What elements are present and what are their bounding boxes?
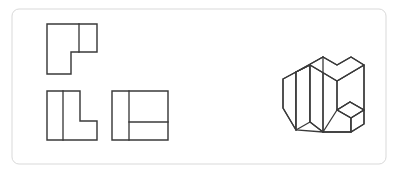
drawing-sheet — [0, 0, 405, 175]
side-view — [112, 91, 168, 140]
iso-front-tall-face — [296, 65, 310, 130]
drawing-canvas — [0, 0, 405, 175]
side-view-outline — [112, 91, 168, 140]
